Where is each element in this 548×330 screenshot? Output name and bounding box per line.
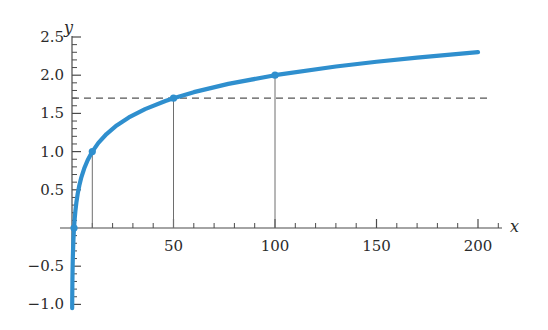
x-axis-label: x xyxy=(510,217,519,236)
y-tick-label-1.5: 1.5 xyxy=(10,104,64,122)
y-tick-label-2.0: 2.0 xyxy=(10,66,64,84)
data-point-markers xyxy=(70,72,278,232)
y-tick-label--1.0: −1.0 xyxy=(10,295,64,313)
y-tick-label-1.0: 1.0 xyxy=(10,143,64,161)
chart-canvas xyxy=(0,0,548,330)
log-plot-figure: −1.0−0.50.51.01.52.02.5 50100150200 x y xyxy=(0,0,548,330)
y-tick-label-2.5: 2.5 xyxy=(10,28,64,46)
x-axis-minor-ticks xyxy=(92,223,498,228)
y-tick-label--0.5: −0.5 xyxy=(10,257,64,275)
x-tick-label-50: 50 xyxy=(164,237,183,255)
x-tick-label-200: 200 xyxy=(464,237,493,255)
marker-x100 xyxy=(271,72,278,79)
marker-x10 xyxy=(89,148,96,155)
x-tick-label-100: 100 xyxy=(261,237,290,255)
y-tick-label-0.5: 0.5 xyxy=(10,181,64,199)
x-axis-major-ticks xyxy=(174,219,479,228)
y-axis-label: y xyxy=(64,18,73,37)
x-tick-label-150: 150 xyxy=(362,237,391,255)
origin-marker xyxy=(70,224,77,231)
marker-x50 xyxy=(170,95,177,102)
